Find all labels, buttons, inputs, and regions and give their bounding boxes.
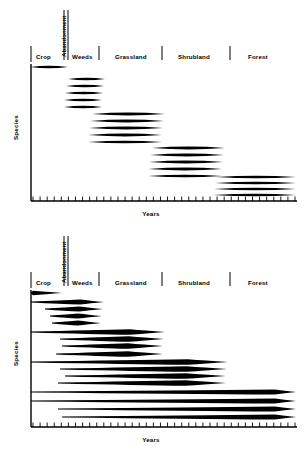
species-lens xyxy=(150,154,224,157)
species-lens xyxy=(148,168,222,171)
species-lens xyxy=(50,313,102,318)
bottom-stage-label-crop: Crop xyxy=(36,279,51,286)
species-lens xyxy=(58,406,296,411)
succession-chart-bottom: Crop Abandonment Weeds Grassland Shrubla… xyxy=(0,226,304,451)
species-lens xyxy=(68,78,105,81)
species-lens xyxy=(213,194,296,197)
species-lens xyxy=(60,366,227,372)
bottom-x-axis-label: Years xyxy=(142,436,160,443)
species-lens xyxy=(88,134,162,137)
species-lens xyxy=(215,182,296,185)
top-stage-label-crop: Crop xyxy=(36,53,51,60)
bottom-species-lenses xyxy=(31,291,296,420)
species-lens xyxy=(31,299,104,304)
species-lens xyxy=(45,306,103,311)
top-panel-svg: Crop Abandonment Weeds Grassland Shrubla… xyxy=(0,0,304,225)
species-lens xyxy=(31,291,62,295)
species-lens xyxy=(31,329,165,335)
bottom-panel-svg: Crop Abandonment Weeds Grassland Shrubla… xyxy=(0,226,304,451)
species-lens xyxy=(60,336,164,342)
species-lens xyxy=(216,176,296,179)
species-lens xyxy=(92,113,165,116)
species-lens xyxy=(214,188,296,191)
species-lens xyxy=(89,127,163,130)
species-lens xyxy=(62,343,163,349)
top-stage-label-weeds: Weeds xyxy=(72,53,93,60)
bottom-stage-label-grassland: Grassland xyxy=(115,279,147,286)
species-lens xyxy=(148,175,222,178)
bottom-stage-label-shrubland: Shrubland xyxy=(178,279,210,286)
species-lens xyxy=(88,141,162,144)
species-lens xyxy=(64,99,102,102)
species-lens xyxy=(30,66,68,68)
species-lens xyxy=(152,147,225,150)
species-lens xyxy=(52,320,101,325)
top-y-axis-label: Species xyxy=(12,115,19,140)
bottom-stage-label-weeds: Weeds xyxy=(72,279,93,286)
succession-chart-top: Crop Abandonment Weeds Grassland Shrubla… xyxy=(0,0,304,225)
top-stage-label-abandonment: Abandonment xyxy=(61,16,67,57)
top-stage-label-forest: Forest xyxy=(248,53,268,60)
top-x-axis-label: Years xyxy=(142,210,160,217)
bottom-stage-label-forest: Forest xyxy=(248,279,268,286)
species-lens xyxy=(90,120,164,123)
bottom-y-axis-label: Species xyxy=(12,341,19,366)
species-lens xyxy=(65,92,103,95)
species-lens xyxy=(64,106,102,108)
species-lens xyxy=(65,373,226,379)
species-lens xyxy=(149,161,223,164)
top-stage-label-shrubland: Shrubland xyxy=(178,53,210,60)
species-lens xyxy=(56,351,163,357)
bottom-stage-label-abandonment: Abandonment xyxy=(61,242,67,283)
species-lens xyxy=(31,359,228,365)
species-lens xyxy=(66,85,104,88)
species-lens xyxy=(62,414,296,419)
top-species-lenses xyxy=(30,66,296,197)
species-lens xyxy=(31,389,296,394)
top-stage-label-grassland: Grassland xyxy=(115,53,147,60)
species-lens xyxy=(58,380,226,386)
species-lens xyxy=(31,398,296,403)
